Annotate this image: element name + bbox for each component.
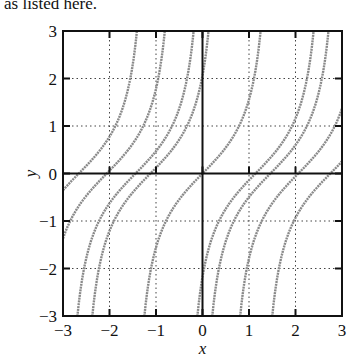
y-tick-label: 1 (49, 117, 58, 136)
x-tick-label: 3 (338, 321, 347, 340)
slope-field-chart: −3−2−10123−3−2−10123xy (0, 0, 351, 362)
solution-curve (238, 109, 342, 339)
x-tick-label: −1 (147, 321, 165, 340)
y-tick-label: 0 (49, 165, 58, 184)
y-axis-label: y (21, 169, 40, 179)
solution-curve (63, 9, 167, 239)
x-axis-label: x (198, 339, 207, 358)
y-tick-label: −2 (39, 260, 57, 279)
solution-curve (63, 9, 139, 190)
x-tick-label: 1 (245, 321, 254, 340)
y-tick-label: 3 (49, 22, 58, 41)
y-tick-label: 2 (49, 70, 58, 89)
x-tick-label: 2 (291, 321, 300, 340)
solution-curve (270, 161, 342, 338)
x-tick-label: −2 (100, 321, 118, 340)
x-tick-label: 0 (198, 321, 207, 340)
y-tick-label: −1 (39, 212, 57, 231)
y-tick-label: −3 (39, 307, 57, 326)
